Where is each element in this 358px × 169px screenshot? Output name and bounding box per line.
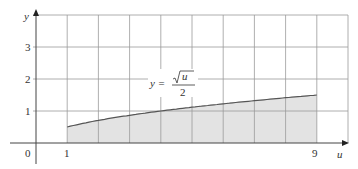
svg-text:y =: y = — [149, 77, 165, 89]
x-axis-label: u — [337, 148, 343, 160]
origin-label: 0 — [25, 147, 31, 159]
eq-lhs: y = — [149, 77, 165, 89]
y-axis-label: y — [23, 10, 29, 22]
y-tick-1: 1 — [25, 105, 31, 117]
y-tick-2: 2 — [25, 73, 31, 85]
x-tick-9: 9 — [312, 147, 318, 159]
eq-numerator: u — [182, 70, 188, 82]
y-tick-3: 3 — [25, 41, 31, 53]
y-axis-arrow-icon — [33, 9, 39, 16]
x-tick-1: 1 — [64, 147, 70, 159]
chart-canvas: y u 3 2 1 0 1 9 y = u 2 — [0, 0, 358, 169]
eq-denominator: 2 — [180, 86, 186, 98]
